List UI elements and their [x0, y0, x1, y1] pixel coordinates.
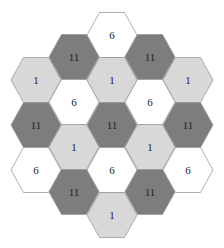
- hex-label: 1: [109, 74, 115, 86]
- hex-label: 1: [109, 209, 115, 221]
- hex-label: 1: [71, 141, 77, 153]
- hex-label: 11: [107, 119, 118, 131]
- hex-label: 11: [145, 186, 156, 198]
- hex-label: 11: [31, 119, 42, 131]
- hex-label: 1: [147, 141, 153, 153]
- hex-label: 1: [33, 74, 39, 86]
- hex-label: 6: [147, 96, 153, 108]
- hex-grid: 61111111661111111166611111: [0, 0, 224, 248]
- hex-label: 6: [109, 164, 115, 176]
- hex-label: 6: [185, 164, 191, 176]
- hex-label: 11: [145, 51, 156, 63]
- hex-label: 1: [185, 74, 191, 86]
- hex-label: 11: [183, 119, 194, 131]
- hex-label: 6: [109, 29, 115, 41]
- hex-label: 11: [69, 51, 80, 63]
- hex-label: 11: [69, 186, 80, 198]
- hex-label: 6: [71, 96, 77, 108]
- hex-label: 6: [33, 164, 39, 176]
